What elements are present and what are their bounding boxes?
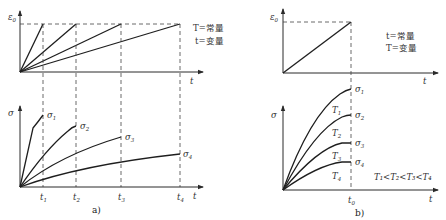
x-axis-label: t <box>190 76 194 86</box>
panel-a-strain-chart: ε0 t T=常量 t=变量 <box>8 11 224 86</box>
panel-b-caption: b) <box>355 208 364 218</box>
temp-label-4: T4 <box>332 171 342 182</box>
stress-curve-1 <box>20 115 43 187</box>
curve-label-1: σ1 <box>355 84 364 95</box>
y-axis-label: ε0 <box>8 12 17 23</box>
y-axis-label: σ <box>271 110 277 120</box>
condition-note-line2: T=变量 <box>386 43 417 53</box>
condition-note-line2: t=变量 <box>195 36 224 46</box>
curve-label-1: σ1 <box>47 110 56 121</box>
panel-b-stress-chart: σ σ1 σ2 σ3 σ4 T1 T2 T3 T4 T₁<T₂<T₃<T₄ t0… <box>271 84 438 218</box>
stress-curve-1 <box>283 89 351 190</box>
tick-label-t3: t3 <box>118 192 125 203</box>
curve-label-2: σ2 <box>355 110 365 121</box>
curve-label-4: σ4 <box>355 157 365 168</box>
x-axis-label: t <box>193 191 197 201</box>
curve-label-3: σ3 <box>355 138 365 149</box>
stress-curve-3 <box>20 137 121 187</box>
diagram-canvas: ε0 t T=常量 t=变量 σ σ1 σ2 σ3 σ4 t1 t2 t3 t4… <box>0 0 446 220</box>
temperature-relation: T₁<T₂<T₃<T₄ <box>374 172 432 182</box>
curve-label-2: σ2 <box>80 121 90 132</box>
strain-line <box>283 22 351 73</box>
temp-label-1: T1 <box>332 105 341 116</box>
condition-note-line1: T=常量 <box>193 23 224 33</box>
condition-note-line1: t=常量 <box>386 31 415 41</box>
x-axis-label: t <box>423 76 427 86</box>
temp-label-2: T2 <box>332 128 342 139</box>
y-axis-label: σ <box>8 108 14 118</box>
curve-label-4: σ4 <box>183 149 193 160</box>
x-axis-label: t <box>429 194 433 204</box>
strain-line-4 <box>20 24 180 72</box>
panel-a-caption: a) <box>92 205 101 215</box>
y-axis-label: ε0 <box>270 12 279 23</box>
tick-label-t4: t4 <box>177 192 184 203</box>
strain-line-2 <box>20 24 76 72</box>
tick-label-t2: t2 <box>73 192 80 203</box>
temp-label-3: T3 <box>332 151 342 162</box>
curve-label-3: σ3 <box>125 132 135 143</box>
panel-a-time-guides <box>43 24 180 187</box>
panel-b-strain-chart: ε0 t t=常量 T=变量 <box>270 9 438 86</box>
strain-line-3 <box>20 24 121 72</box>
tick-label-t0: t0 <box>348 195 355 206</box>
panel-a-stress-chart: σ σ1 σ2 σ3 σ4 t1 t2 t3 t4 t a) <box>8 106 203 215</box>
tick-label-t1: t1 <box>40 192 47 203</box>
strain-line-1 <box>20 24 43 72</box>
